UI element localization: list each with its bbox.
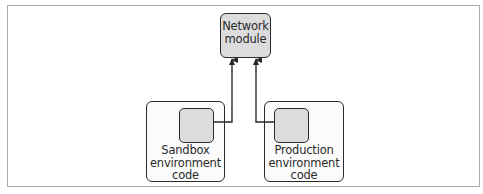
connector-arrows xyxy=(0,0,483,194)
sandbox-to-network-arrow xyxy=(214,60,232,122)
production-to-network-arrow xyxy=(256,60,274,122)
arrowhead-left-icon xyxy=(229,58,235,65)
arrowhead-right-icon xyxy=(253,58,259,65)
